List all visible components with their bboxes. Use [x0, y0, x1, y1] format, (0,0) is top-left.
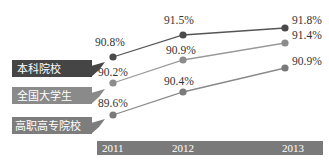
value-label: 91.5% [164, 14, 194, 26]
value-label: 90.8% [95, 36, 125, 48]
marker-vocational-2012 [179, 88, 186, 95]
legend-item-vocational: 高职高专院校 [12, 117, 105, 134]
marker-vocational-2011 [109, 111, 116, 118]
svg-text:全国大学生: 全国大学生 [17, 89, 72, 103]
value-label: 91.8% [292, 14, 322, 26]
marker-national-2013 [281, 39, 288, 46]
marker-undergrad-2013 [281, 24, 288, 31]
value-label: 91.4% [292, 29, 322, 41]
marker-national-2012 [179, 56, 186, 63]
marker-vocational-2013 [281, 64, 288, 71]
x-tick-2012: 2012 [172, 142, 194, 154]
svg-text:本科院校: 本科院校 [17, 62, 61, 76]
legend-item-national: 全国大学生 [12, 87, 105, 104]
x-tick-2013: 2013 [282, 142, 305, 154]
line-chart: 2011 2012 2013 90.8% 91.5% 91.8% 90.2% 9… [0, 0, 329, 166]
value-label: 90.9% [292, 55, 322, 67]
marker-undergrad-2012 [179, 31, 186, 38]
series-line-undergrad [113, 28, 285, 57]
value-label: 90.9% [166, 44, 196, 56]
marker-national-2011 [109, 79, 116, 86]
marker-undergrad-2011 [109, 53, 116, 60]
x-tick-2011: 2011 [102, 142, 124, 154]
legend-item-undergrad: 本科院校 [12, 60, 105, 77]
value-label: 89.6% [98, 97, 128, 109]
svg-text:高职高专院校: 高职高专院校 [15, 119, 81, 133]
value-label: 90.4% [164, 75, 194, 87]
value-label: 90.2% [98, 66, 128, 78]
